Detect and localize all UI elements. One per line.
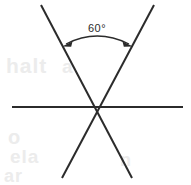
figure-canvas: 60° (0, 0, 191, 185)
diagonal-line-right-to-left (62, 5, 154, 178)
diagonal-line-left-to-right (41, 5, 132, 178)
angle-arc-60-icon (66, 36, 129, 44)
angle-arrowhead-right-icon (123, 42, 134, 47)
angle-arrowhead-left-icon (62, 42, 73, 47)
angle-label: 60° (88, 22, 106, 34)
geometry-figure: halt a o ela ar n 60° (0, 0, 191, 185)
